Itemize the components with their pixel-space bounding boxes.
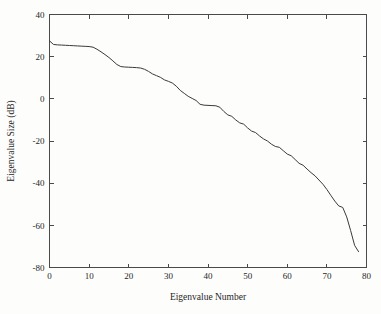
x-tick-label: 60: [283, 271, 293, 281]
data-series-group: [50, 41, 359, 252]
y-axis-ticks: -80-60-40-2002040: [33, 10, 367, 273]
y-tick-label: -40: [33, 178, 45, 188]
data-line-eigenvalue-spectrum: [50, 41, 359, 252]
x-tick-label: 50: [243, 271, 253, 281]
x-tick-label: 20: [124, 271, 134, 281]
x-tick-label: 80: [362, 271, 372, 281]
chart-figure: -80-60-40-2002040 01020304050607080 Eige…: [0, 0, 381, 314]
y-tick-label: 20: [36, 52, 46, 62]
y-tick-label: -60: [33, 221, 45, 231]
y-tick-label: 0: [40, 94, 45, 104]
x-axis-ticks: 01020304050607080: [47, 15, 371, 281]
plot-border: [50, 15, 367, 268]
x-tick-label: 10: [85, 271, 95, 281]
x-tick-label: 30: [164, 271, 174, 281]
x-tick-label: 0: [47, 271, 52, 281]
x-axis-title: Eigenvalue Number: [170, 292, 247, 302]
plot-frame: [50, 15, 367, 268]
x-tick-label: 40: [204, 271, 214, 281]
y-axis-title: Eigenvalue Size (dB): [6, 100, 17, 181]
eigenvalue-plot: -80-60-40-2002040 01020304050607080 Eige…: [0, 0, 381, 314]
y-tick-label: -20: [33, 136, 45, 146]
x-tick-label: 70: [322, 271, 332, 281]
y-tick-label: -80: [33, 263, 45, 273]
y-tick-label: 40: [36, 10, 46, 20]
